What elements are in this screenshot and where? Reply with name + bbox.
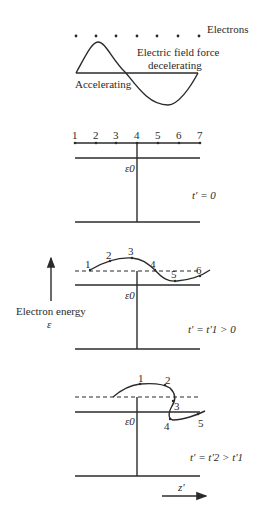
force-label-line1: Electric field force <box>137 46 220 58</box>
position-label: 7 <box>197 129 203 141</box>
velocity-modulation-diagram: Electrons Electric field force decelerat… <box>0 0 257 517</box>
e0-label: ε0 <box>125 289 135 301</box>
position-label: 1 <box>72 129 78 141</box>
point-label: 5 <box>198 417 204 429</box>
time-label: t' = 0 <box>192 189 216 201</box>
time-label: t' = t'1 > 0 <box>188 323 236 335</box>
e0-label: ε0 <box>125 162 135 174</box>
position-label: 6 <box>176 129 182 141</box>
energy-axis: Electron energy ε <box>16 258 86 330</box>
point-label: 2 <box>106 249 112 261</box>
point-label: 1 <box>85 258 91 270</box>
point-label: 4 <box>164 420 170 432</box>
point-label: 3 <box>174 400 180 412</box>
point-label: 3 <box>128 245 134 257</box>
panel-t1: 1 2 3 4 5 6 ε0 t' = t'1 > 0 <box>75 245 236 349</box>
point-label: 6 <box>196 264 202 276</box>
energy-axis-label: Electron energy <box>16 305 86 317</box>
position-label: 4 <box>134 129 140 141</box>
electron-dots <box>75 35 201 38</box>
z-axis-label: z' <box>177 481 185 493</box>
e0-label: ε0 <box>125 415 135 427</box>
point-label: 4 <box>150 258 156 270</box>
point-label: 1 <box>138 372 144 384</box>
time-label: t' = t'2 > t'1 <box>190 451 243 463</box>
electron-beam-panel: Electrons Electric field force decelerat… <box>75 23 249 105</box>
z-axis: z' <box>162 481 206 496</box>
electrons-label: Electrons <box>207 23 249 35</box>
position-label: 2 <box>93 129 99 141</box>
point-label: 5 <box>171 268 177 280</box>
force-label-line2: decelerating <box>148 59 202 71</box>
panel-t0: 1 2 3 4 5 6 7 ε0 t' = 0 <box>72 129 216 222</box>
accelerating-label: Accelerating <box>75 78 132 90</box>
point-label: 2 <box>165 374 171 386</box>
position-label: 5 <box>155 129 161 141</box>
energy-symbol: ε <box>47 318 52 330</box>
position-label: 3 <box>113 129 119 141</box>
panel-t2: 1 2 3 4 5 ε0 t' = t'2 > t'1 <box>75 372 243 476</box>
